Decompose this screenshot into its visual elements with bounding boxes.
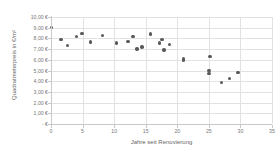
gridline-horizontal: [51, 92, 272, 93]
x-axis-tick-mark: [272, 125, 273, 128]
y-axis-tick-mark: [48, 28, 51, 29]
y-axis-tick-mark: [48, 113, 51, 114]
x-axis-tick-label: 25: [197, 128, 221, 134]
y-axis-tick-label: 2,00 €: [2, 100, 48, 106]
scatter-point: [80, 32, 83, 35]
scatter-point: [135, 47, 138, 50]
scatter-point: [59, 38, 62, 41]
x-axis-tick-label: 10: [102, 128, 126, 134]
y-axis-tick-label: 8,00 €: [2, 35, 48, 41]
scatter-point: [101, 34, 104, 37]
y-axis-tick-mark: [48, 71, 51, 72]
x-axis-tick-label: 35: [260, 128, 280, 134]
scatter-point: [182, 58, 185, 61]
y-axis-tick-labels: 10,00 €9,00 €8,00 €7,00 €6,00 €5,00 €4,0…: [0, 0, 48, 165]
y-axis-tick-label: 10,00 €: [2, 14, 48, 20]
y-axis-tick-label: 5,00 €: [2, 68, 48, 74]
x-axis-tick-label: 15: [134, 128, 158, 134]
scatter-point: [126, 40, 129, 43]
gridline-horizontal: [51, 17, 272, 18]
x-axis-tick-mark: [146, 125, 147, 128]
gridline-horizontal: [51, 28, 272, 29]
y-axis-tick-label: 7,00 €: [2, 46, 48, 52]
y-axis-tick-mark: [48, 103, 51, 104]
x-axis-tick-label: 0: [39, 128, 63, 134]
gridline-vertical: [114, 17, 115, 124]
scatter-point: [160, 38, 163, 41]
y-axis-tick-label: 4,00 €: [2, 78, 48, 84]
scatter-point: [149, 32, 152, 35]
y-axis-tick-mark: [48, 81, 51, 82]
x-axis-tick-mark: [240, 125, 241, 128]
scatter-point: [89, 40, 92, 43]
y-axis-tick-mark: [48, 92, 51, 93]
gridline-horizontal: [51, 103, 272, 104]
y-axis-line: [51, 16, 52, 125]
gridline-vertical: [272, 17, 273, 124]
x-axis-tick-mark: [114, 125, 115, 128]
y-axis-tick-label: 1,00 €: [2, 110, 48, 116]
gridline-vertical: [240, 17, 241, 124]
scatter-point: [140, 45, 143, 48]
x-axis-tick-mark: [177, 125, 178, 128]
scatter-point: [207, 72, 210, 75]
gridline-horizontal: [51, 60, 272, 61]
y-axis-tick-mark: [48, 38, 51, 39]
gridline-horizontal: [51, 81, 272, 82]
y-axis-tick-label: 3,00 €: [2, 89, 48, 95]
y-axis-tick-label: 9,00 €: [2, 25, 48, 31]
y-axis-tick-mark: [48, 17, 51, 18]
scatter-point: [75, 35, 78, 38]
gridline-vertical: [177, 17, 178, 124]
scatter-point: [162, 48, 165, 51]
scatter-point: [131, 35, 134, 38]
y-axis-tick-mark: [48, 60, 51, 61]
scatter-point: [208, 55, 211, 58]
scatter-point: [115, 41, 118, 44]
scatter-point: [168, 43, 171, 46]
x-axis-tick-mark: [51, 125, 52, 128]
gridline-vertical: [146, 17, 147, 124]
y-axis-tick-label: - €: [2, 121, 48, 127]
gridline-horizontal: [51, 113, 272, 114]
scatter-point: [236, 71, 239, 74]
y-axis-tick-mark: [48, 49, 51, 50]
x-axis-tick-label: 20: [165, 128, 189, 134]
x-axis-tick-mark: [83, 125, 84, 128]
x-axis-tick-mark: [209, 125, 210, 128]
scatter-point: [228, 77, 231, 80]
scatter-point: [66, 44, 69, 47]
x-axis-line: [51, 124, 272, 125]
x-axis-title: Jahre seit Renovierung: [51, 139, 272, 145]
plot-area: [51, 17, 272, 124]
scatter-chart: Quadratmeterpreis in €/m² 10,00 €9,00 €8…: [0, 0, 280, 165]
scatter-point: [158, 41, 161, 44]
x-axis-tick-label: 30: [228, 128, 252, 134]
scatter-point: [220, 81, 223, 84]
y-axis-tick-label: 6,00 €: [2, 57, 48, 63]
x-axis-tick-label: 5: [71, 128, 95, 134]
